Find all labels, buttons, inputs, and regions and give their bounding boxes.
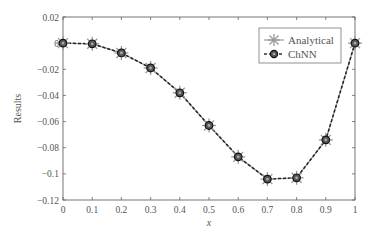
legend-label: Analytical	[288, 34, 334, 46]
circle-marker-icon	[88, 40, 96, 48]
x-tick-label: 0.4	[174, 205, 186, 215]
y-tick-label: 0.02	[42, 13, 59, 23]
circle-marker-icon	[205, 122, 213, 130]
legend-item-analytical: Analytical	[264, 34, 334, 46]
y-tick-label: −0.08	[37, 143, 59, 153]
x-tick-label: 0.3	[145, 205, 157, 215]
y-tick-label: −0.06	[37, 117, 59, 127]
circle-marker-icon	[59, 39, 67, 47]
x-tick-label: 0.5	[203, 205, 215, 215]
x-tick-label: 1	[353, 205, 358, 215]
circle-marker-icon	[293, 174, 301, 182]
circle-marker-icon	[234, 153, 242, 161]
x-tick-label: 0.2	[115, 205, 127, 215]
circle-marker-icon	[176, 89, 184, 97]
x-tick-label: 0.8	[291, 205, 303, 215]
x-tick-label: 0.6	[232, 205, 244, 215]
y-tick-label: −0.12	[37, 196, 59, 206]
x-tick-label: 0.7	[261, 205, 273, 215]
asterisk-marker-icon	[268, 34, 280, 46]
legend-label: ChNN	[288, 48, 317, 60]
y-tick-label: −0.02	[37, 65, 59, 75]
chart: 00.10.20.30.40.50.60.70.80.910.020−0.02−…	[0, 0, 380, 237]
x-axis-label: x	[206, 217, 212, 228]
circle-marker-icon	[147, 64, 155, 72]
y-axis-label: Results	[12, 94, 23, 124]
x-tick-label: 0.9	[320, 205, 332, 215]
x-tick-label: 0.1	[86, 205, 98, 215]
y-tick-label: −0.1	[42, 169, 59, 179]
circle-marker-icon	[118, 49, 126, 57]
circle-marker-icon	[270, 50, 277, 57]
x-tick-label: 0	[61, 205, 66, 215]
circle-marker-icon	[264, 175, 272, 183]
circle-marker-icon	[322, 136, 330, 144]
legend: Analytical ChNN	[259, 28, 341, 63]
y-tick-label: −0.04	[37, 91, 59, 101]
circle-marker-icon	[351, 39, 359, 47]
chnn-line	[63, 43, 355, 179]
